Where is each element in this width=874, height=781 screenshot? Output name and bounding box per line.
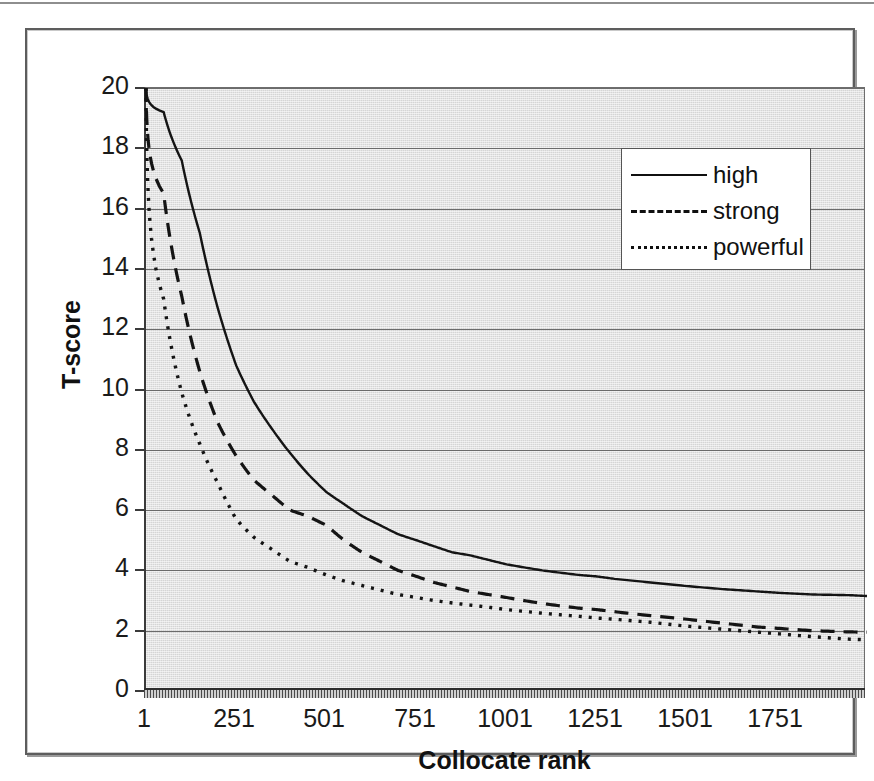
y-tick-mark-8 [135,449,144,451]
legend-swatch-line [631,174,707,176]
y-tick-mark-20 [135,87,144,89]
y-tick-mark-12 [135,328,144,330]
y-tick-label-2: 2 [69,616,129,641]
legend-swatch-line [631,210,707,213]
legend-swatch-line [631,246,707,249]
y-tick-label-12: 12 [69,314,129,339]
y-tick-label-20: 20 [69,73,129,98]
legend-label-strong: strong [707,197,780,225]
y-tick-label-6: 6 [69,495,129,520]
figure-page: T-score 20181614121086420 12515017511001… [0,0,874,781]
y-axis-title: T-score [57,265,86,425]
y-tick-label-0: 0 [69,676,129,701]
page-top-rule [0,2,874,4]
legend-item-powerful[interactable]: powerful [622,229,810,265]
legend-label-high: high [707,161,758,189]
y-tick-mark-4 [135,569,144,571]
y-tick-label-18: 18 [69,133,129,158]
y-tick-mark-2 [135,630,144,632]
x-tick-label-1751: 1751 [720,706,830,731]
legend-swatch-dashed-icon [631,204,707,218]
legend-item-strong[interactable]: strong [622,193,810,229]
legend-label-powerful: powerful [707,233,804,261]
legend-swatch-dotted-icon [631,240,707,254]
legend-swatch-solid-icon [631,168,707,182]
y-tick-label-16: 16 [69,194,129,219]
y-tick-label-14: 14 [69,254,129,279]
y-tick-label-10: 10 [69,375,129,400]
y-tick-mark-16 [135,208,144,210]
y-tick-label-8: 8 [69,435,129,460]
y-tick-mark-0 [135,690,144,692]
x-axis-band [144,688,865,698]
y-tick-mark-10 [135,389,144,391]
y-tick-mark-18 [135,147,144,149]
x-axis-title: Collocate rank [144,746,865,775]
y-tick-mark-6 [135,509,144,511]
legend-item-high[interactable]: high [622,157,810,193]
legend: highstrongpowerful [621,148,811,270]
figure-frame: T-score 20181614121086420 12515017511001… [25,28,855,755]
y-tick-label-4: 4 [69,555,129,580]
y-tick-mark-14 [135,268,144,270]
